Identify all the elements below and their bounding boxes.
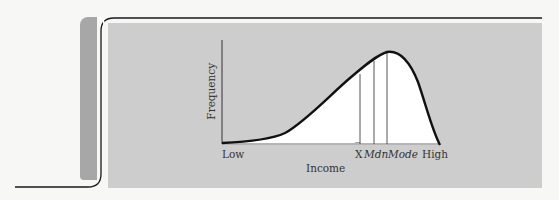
mean-bar: ‾ xyxy=(355,142,360,153)
tick-high: High xyxy=(422,149,448,160)
tick-median: Mdn xyxy=(364,149,388,160)
curve-area xyxy=(222,52,440,145)
tick-mean: ‾ X xyxy=(355,149,362,160)
tick-low: Low xyxy=(222,149,244,160)
x-axis-label: Income xyxy=(306,163,345,174)
distribution-chart xyxy=(0,0,559,200)
y-axis-label: Frequency xyxy=(206,56,217,126)
tick-mode: Mode xyxy=(388,149,418,160)
